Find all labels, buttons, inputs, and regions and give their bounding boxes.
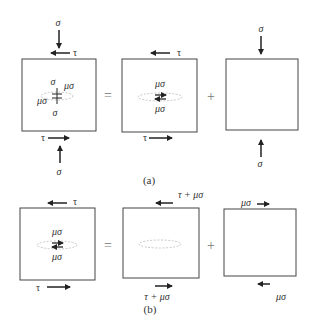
inner-top-label: μσ <box>51 226 63 237</box>
top-normal-stress-label: σ <box>56 17 62 28</box>
bottom-shear-label: τ <box>41 132 45 143</box>
bottom-normal-stress-label: σ <box>57 166 63 177</box>
bottom-shear-label: τ + μσ <box>144 291 170 302</box>
panel-a-element-normal: σ σ <box>226 23 298 169</box>
inner-bottom-label: μσ <box>51 251 63 262</box>
bottom-shear-label: τ <box>143 132 147 143</box>
panel-a-element-shear: τ μσ μσ τ <box>122 47 197 143</box>
plus-sign: + <box>207 238 215 253</box>
top-shear-label: τ <box>73 47 77 58</box>
element-box <box>123 208 199 278</box>
inner-bottom-label: σ <box>53 107 59 118</box>
equals-sign: = <box>104 238 112 253</box>
panel-a-element-combined: σ τ σ μσ μσ σ τ σ <box>22 17 96 177</box>
panel-b-element-sum: τ + μσ τ + μσ <box>123 189 204 302</box>
element-box <box>22 59 96 131</box>
element-box <box>20 208 95 280</box>
bottom-shear-label: τ <box>36 282 40 293</box>
contact-plane-ellipse <box>37 241 77 249</box>
plus-sign: + <box>207 89 215 104</box>
element-box <box>224 209 296 276</box>
inner-right-label: μσ <box>63 80 75 91</box>
contact-plane-ellipse <box>138 93 182 101</box>
inner-top-label: σ <box>51 76 57 87</box>
inner-bottom-label: μσ <box>154 103 166 114</box>
top-shear-label: τ <box>73 196 77 207</box>
bottom-normal-stress-label: σ <box>258 158 264 169</box>
top-shear-label: τ + μσ <box>178 189 204 200</box>
inner-top-label: μσ <box>154 78 166 89</box>
caption-a: (a) <box>143 174 156 187</box>
panel-b-element-combined: τ μσ μσ τ <box>20 196 95 293</box>
top-normal-stress-label: σ <box>259 23 265 34</box>
top-shear-label: μσ <box>240 197 252 208</box>
caption-b: (b) <box>144 303 157 316</box>
panel-b: τ μσ μσ τ = τ + μσ τ + μσ + μσ μ <box>20 189 296 316</box>
contact-plane-ellipse <box>139 240 181 248</box>
equals-sign: = <box>104 88 112 103</box>
top-shear-label: τ <box>177 47 181 58</box>
panel-a: σ τ σ μσ μσ σ τ σ = τ μσ <box>22 17 298 187</box>
inner-left-label: μσ <box>36 95 48 106</box>
stress-decomposition-diagram: σ τ σ μσ μσ σ τ σ = τ μσ <box>0 0 315 334</box>
element-box <box>226 59 298 130</box>
bottom-shear-label: μσ <box>275 291 287 302</box>
panel-b-element-friction: μσ μσ <box>224 197 296 302</box>
